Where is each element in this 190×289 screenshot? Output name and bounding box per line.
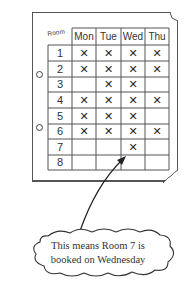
column-header-thu: Thu (145, 31, 169, 43)
booking-mark-icon: ✕ (96, 93, 121, 108)
booking-mark-icon: ✕ (121, 109, 145, 124)
booking-mark-icon: ✕ (121, 140, 145, 155)
column-header-tue: Tue (96, 31, 121, 43)
room-number-5: 5 (48, 109, 72, 124)
booking-mark-icon: ✕ (72, 109, 96, 124)
room-number-2: 2 (48, 62, 72, 77)
booking-diagram: Room Mon Tue Wed Thu 1✕✕✕✕2✕✕✕✕3✕✕4✕✕✕✕5… (0, 0, 190, 289)
column-header-wed: Wed (121, 31, 145, 43)
column-header-mon: Mon (72, 31, 96, 43)
booking-mark-icon: ✕ (96, 46, 121, 61)
callout-text-line-1: This means Room 7 is (36, 239, 160, 253)
room-number-8: 8 (48, 155, 72, 170)
booking-mark-icon: ✕ (96, 62, 121, 77)
room-number-7: 7 (48, 140, 72, 155)
booking-mark-icon: ✕ (96, 124, 121, 139)
booking-mark-icon: ✕ (121, 62, 145, 77)
booking-mark-icon: ✕ (72, 93, 96, 108)
booking-mark-icon: ✕ (121, 124, 145, 139)
booking-mark-icon: ✕ (72, 124, 96, 139)
room-number-4: 4 (48, 93, 72, 108)
booking-mark-icon: ✕ (145, 62, 169, 77)
binder-hole-bottom (36, 124, 43, 131)
booking-mark-icon: ✕ (121, 46, 145, 61)
room-number-6: 6 (48, 124, 72, 139)
booking-mark-icon: ✕ (121, 93, 145, 108)
booking-mark-icon: ✕ (145, 46, 169, 61)
booking-mark-icon: ✕ (72, 46, 96, 61)
top-right-fold (170, 12, 178, 21)
booking-mark-icon: ✕ (96, 77, 121, 92)
callout-text-line-2: booked on Wednesday (36, 253, 160, 267)
callout-arrow (80, 156, 126, 231)
booking-mark-icon: ✕ (96, 109, 121, 124)
booking-mark-icon: ✕ (72, 62, 96, 77)
room-number-1: 1 (48, 46, 72, 61)
room-number-3: 3 (48, 77, 72, 92)
binder-hole-top (36, 71, 43, 78)
bottom-right-curl (163, 170, 178, 183)
booking-mark-icon: ✕ (121, 77, 145, 92)
booking-mark-icon: ✕ (145, 93, 169, 108)
booking-mark-icon: ✕ (145, 124, 169, 139)
